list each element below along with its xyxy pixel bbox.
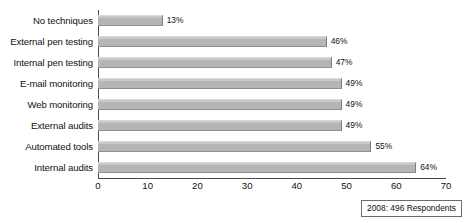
category-label: Internal audits [0,163,93,173]
bar-row: 46% [98,36,446,47]
category-label: External pen testing [0,37,93,47]
bar-value-label: 49% [346,98,363,110]
x-tick-label: 10 [142,180,153,192]
x-tick-label: 0 [95,180,100,192]
x-tick-label: 60 [391,180,402,192]
bar-row: 55% [98,141,446,152]
category-axis-labels: No techniquesExternal pen testingInterna… [0,10,93,178]
category-label: Internal pen testing [0,58,93,68]
bar-row: 49% [98,120,446,131]
category-label: E-mail monitoring [0,79,93,89]
bar [98,162,416,173]
bar-value-label: 64% [420,161,437,173]
bar-value-label: 13% [167,14,184,26]
x-tick-label: 70 [441,180,452,192]
x-tick-label: 50 [341,180,352,192]
x-axis-line [98,178,446,179]
bar-value-label: 46% [331,35,348,47]
bar-value-label: 55% [375,140,392,152]
bar [98,120,342,131]
bar-value-label: 47% [336,56,353,68]
bar-row: 13% [98,15,446,26]
bar-value-label: 49% [346,119,363,131]
bar [98,36,327,47]
bar-row: 49% [98,99,446,110]
bar-value-label: 49% [346,77,363,89]
bar-chart: No techniquesExternal pen testingInterna… [0,0,466,223]
x-tick-label: 30 [242,180,253,192]
respondents-annotation: 2008: 496 Respondents [361,200,462,217]
bar [98,99,342,110]
bar [98,141,371,152]
bar-row: 49% [98,78,446,89]
category-label: External audits [0,121,93,131]
category-label: Automated tools [0,142,93,152]
category-label: No techniques [0,16,93,26]
x-tick-label: 40 [292,180,303,192]
bar [98,57,332,68]
plot-area: 13%46%47%49%49%49%55%64% [98,10,446,178]
bar-row: 64% [98,162,446,173]
bar [98,78,342,89]
bar [98,15,163,26]
bar-row: 47% [98,57,446,68]
x-axis-tick-labels: 010203040506070 [98,180,446,194]
category-label: Web monitoring [0,100,93,110]
x-tick-label: 20 [192,180,203,192]
